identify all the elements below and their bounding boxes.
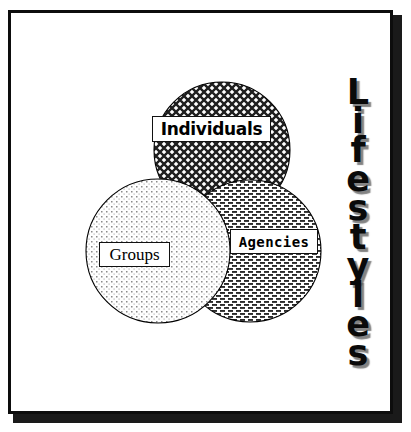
venn-stage: Individuals Groups Agencies L i f e s t … [0, 0, 411, 432]
venn-diagram-figure: Individuals Groups Agencies L i f e s t … [0, 0, 411, 432]
venn-label-individuals: Individuals [152, 116, 271, 142]
lifestyles-wordmark: L i f e s t y l e s [330, 78, 386, 368]
venn-label-groups: Groups [99, 242, 170, 267]
venn-label-agencies: Agencies [230, 229, 318, 254]
wordmark-letter: s [348, 339, 369, 368]
